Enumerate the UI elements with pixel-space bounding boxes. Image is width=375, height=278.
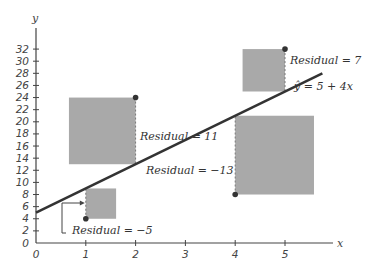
- x-tick-label: 1: [82, 248, 89, 260]
- y-tick-label: 0: [22, 237, 29, 249]
- y-tick-label: 8: [22, 188, 29, 200]
- residual-square: [86, 188, 116, 218]
- y-tick-label: 30: [16, 55, 30, 67]
- residual-square: [69, 98, 136, 165]
- residual-squares-chart: 01234502468101214161820222426283032xy Re…: [0, 0, 375, 278]
- y-tick-label: 26: [16, 79, 30, 91]
- y-tick-label: 20: [16, 115, 30, 127]
- residual-label-minus-13: Residual = −13: [145, 164, 234, 177]
- x-tick-label: 5: [282, 248, 289, 260]
- residual-square: [235, 116, 314, 195]
- residual-square: [243, 49, 285, 91]
- residual-label-7: Residual = 7: [289, 54, 361, 67]
- y-tick-label: 2: [22, 224, 29, 236]
- y-tick-label: 24: [16, 91, 29, 103]
- arrowhead: [80, 201, 85, 206]
- y-tick-label: 12: [16, 164, 30, 176]
- y-tick-label: 14: [16, 152, 29, 164]
- x-tick-label: 0: [33, 248, 40, 260]
- data-point: [83, 216, 89, 222]
- y-tick-label: 4: [22, 212, 29, 224]
- regression-equation: ŷ = 5 + 4x: [293, 80, 354, 93]
- x-tick-label: 2: [132, 248, 139, 260]
- y-tick-label: 28: [16, 67, 30, 79]
- y-tick-label: 22: [16, 103, 30, 115]
- x-axis-label: x: [337, 237, 344, 250]
- y-axis-label: y: [31, 12, 39, 25]
- residual-label-11: Residual = 11: [139, 130, 218, 143]
- y-tick-label: 18: [16, 127, 30, 139]
- y-tick-label: 16: [16, 140, 30, 152]
- y-tick-label: 10: [16, 176, 30, 188]
- y-tick-label: 32: [16, 43, 30, 55]
- data-point: [282, 46, 288, 52]
- x-tick-label: 4: [232, 248, 239, 260]
- x-tick-label: 3: [182, 248, 189, 260]
- residual-label-minus-5: Residual = −5: [71, 224, 153, 237]
- data-point: [232, 192, 238, 198]
- y-tick-label: 6: [22, 200, 29, 212]
- data-point: [133, 95, 139, 101]
